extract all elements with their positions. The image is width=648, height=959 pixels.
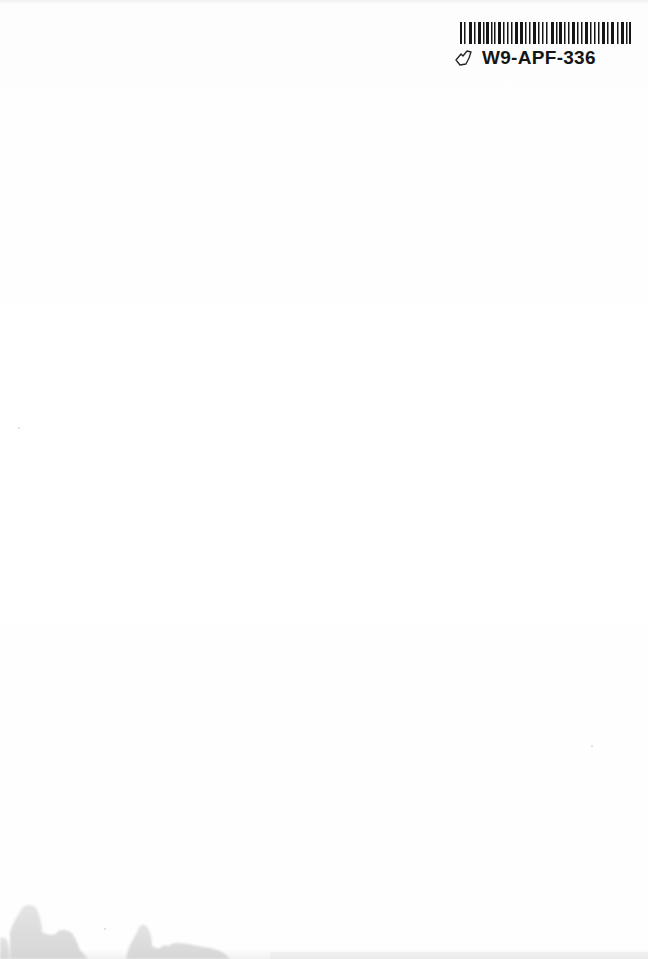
scanned-page: W9-APF-336 — [0, 0, 648, 959]
barcode-id-row: W9-APF-336 — [452, 46, 596, 70]
page-top-edge-shadow — [0, 0, 648, 4]
page-speck — [18, 427, 20, 429]
page-speck — [591, 745, 593, 747]
page-speck — [104, 928, 106, 930]
library-barcode-label: W9-APF-336 — [452, 22, 642, 72]
barcode-icon — [460, 22, 632, 44]
hand-pointer-icon — [454, 49, 474, 67]
page-bottom-edge-shadow — [0, 949, 648, 959]
water-stains — [0, 880, 648, 959]
barcode-id-text: W9-APF-336 — [482, 47, 596, 69]
